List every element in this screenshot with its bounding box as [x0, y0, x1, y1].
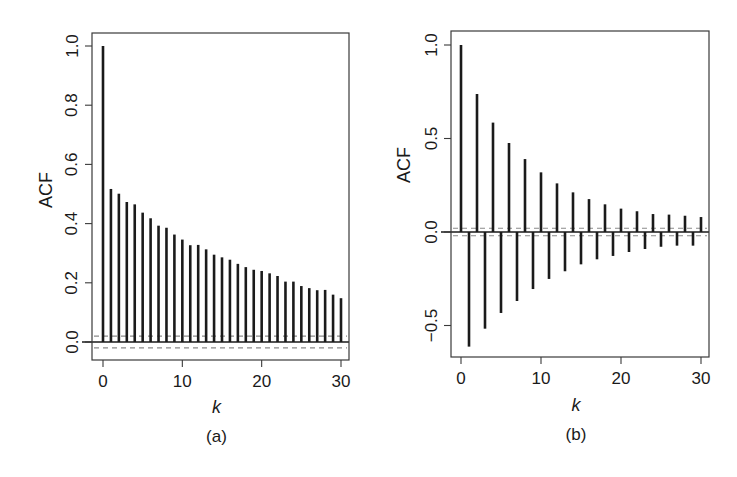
acf-bars	[103, 46, 341, 342]
x-tick-label: 20	[612, 369, 631, 388]
panel-caption: (b)	[566, 425, 587, 444]
plot-frame	[451, 31, 709, 357]
x-tick-label: 10	[532, 369, 551, 388]
x-axis-label: k	[212, 397, 222, 417]
y-tick-label: 0.0	[422, 220, 441, 244]
x-tick-label: 0	[456, 369, 465, 388]
y-tick-label: 0.8	[63, 93, 82, 117]
acf-figure: 0.00.20.40.60.81.00102030ACFk(a) −0.50.0…	[0, 0, 737, 477]
x-tick-label: 10	[173, 372, 192, 391]
x-tick-label: 30	[692, 369, 711, 388]
x-axis-label: k	[572, 395, 582, 415]
x-tick-label: 0	[98, 372, 107, 391]
y-tick-label: 1.0	[422, 33, 441, 57]
x-tick-label: 20	[252, 372, 271, 391]
y-tick-label: 0.5	[422, 127, 441, 151]
y-tick-label: 1.0	[63, 34, 82, 58]
y-tick-label: 0.2	[63, 271, 82, 295]
y-tick-label: 0.6	[63, 153, 82, 177]
y-tick-label: −0.5	[422, 309, 441, 343]
y-axis-label: ACF	[394, 147, 414, 183]
acf-chart-panel-a: 0.00.20.40.60.81.00102030ACFk(a)	[36, 33, 350, 446]
y-tick-label: 0.0	[63, 330, 82, 354]
y-tick-label: 0.4	[63, 212, 82, 236]
acf-bars	[461, 45, 701, 347]
panel-caption: (a)	[206, 427, 227, 446]
acf-chart-panel-b: −0.50.00.51.00102030ACFk(b)	[394, 31, 710, 444]
x-tick-label: 30	[332, 372, 351, 391]
y-axis-label: ACF	[36, 172, 56, 208]
